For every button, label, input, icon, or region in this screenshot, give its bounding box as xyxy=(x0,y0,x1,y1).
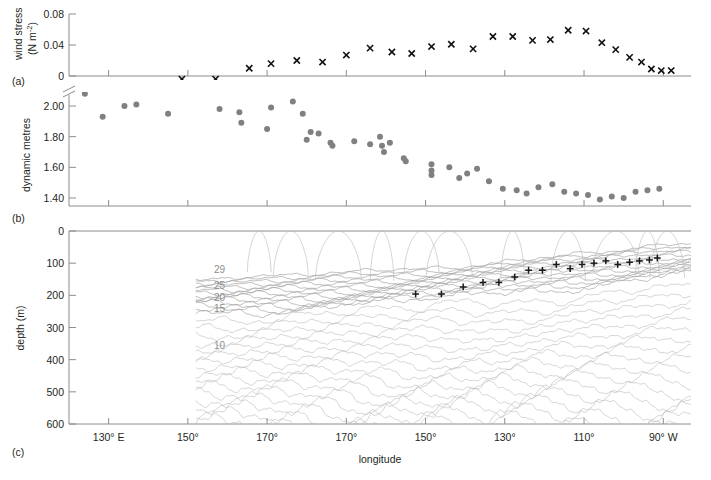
data-point-dot-4 xyxy=(165,111,171,117)
data-point-dot-29 xyxy=(456,175,462,181)
panel-a-ylabel-line2: (N m-2) xyxy=(25,22,38,55)
data-point-dot-3 xyxy=(133,101,139,107)
xtick-label-6: 110° xyxy=(574,431,595,443)
panel-b-data-points xyxy=(82,91,662,203)
data-point-cross-23 xyxy=(648,66,654,72)
data-point-dot-1 xyxy=(100,114,106,120)
xtick-label-3: 170° xyxy=(335,431,357,443)
data-point-cross-12 xyxy=(470,46,476,52)
panel-c-ytick-2: 200 xyxy=(46,289,64,301)
data-point-dot-20 xyxy=(379,143,385,149)
data-point-cross-11 xyxy=(448,41,454,47)
panel-letter-b: (b) xyxy=(12,212,25,224)
data-point-cross-16 xyxy=(547,36,553,42)
isotherm-0 xyxy=(196,244,691,281)
xtick-label-5: 130° xyxy=(494,431,516,443)
data-point-dot-35 xyxy=(524,190,530,196)
panel-a-wind-stress: wind stress (N m-2) (a) 0.08 0.04 0 xyxy=(12,7,691,87)
panel-c-xtick-labels: 130° E150°170°170°150°130°110°90° W xyxy=(93,431,678,443)
data-point-dot-33 xyxy=(500,186,506,192)
data-point-dot-6 xyxy=(236,109,242,115)
data-point-cross-8 xyxy=(389,49,395,55)
panel-b-ytick-0: 2.00 xyxy=(44,100,65,112)
data-point-dot-28 xyxy=(446,164,452,170)
panel-b-yticks: 2.001.801.601.40 xyxy=(44,100,76,204)
data-point-dot-43 xyxy=(621,195,627,201)
data-point-cross-21 xyxy=(626,54,632,60)
xtick-label-1: 150° xyxy=(177,431,199,443)
data-point-cross-7 xyxy=(367,45,373,51)
isotherm-21 xyxy=(196,344,691,372)
data-point-dot-40 xyxy=(585,192,591,198)
contour-label-15: 15 xyxy=(214,303,226,314)
panel-c-yticks: 0100200300400500600 xyxy=(46,225,76,430)
xtick-label-4: 150° xyxy=(415,431,437,443)
data-point-dot-25 xyxy=(429,161,435,167)
panel-b-dynamic-metres: dynamic metres (b) 2.001.801.601.40 xyxy=(12,86,691,224)
data-point-dot-19 xyxy=(377,134,383,140)
data-point-dot-7 xyxy=(238,120,244,126)
data-point-cross-20 xyxy=(613,47,619,53)
data-point-cross-19 xyxy=(599,40,605,46)
x-axis-label: longitude xyxy=(359,453,402,465)
isotherm-17 xyxy=(196,307,691,348)
data-point-dot-42 xyxy=(609,193,615,199)
data-point-dot-41 xyxy=(597,197,603,203)
data-point-cross-2 xyxy=(246,65,252,71)
data-point-dot-10 xyxy=(290,98,296,104)
panel-a-ytick-2: 0 xyxy=(58,70,64,82)
data-point-dot-11 xyxy=(300,111,306,117)
data-point-cross-5 xyxy=(319,59,325,65)
panel-b-ytick-2: 1.60 xyxy=(44,161,65,173)
data-point-cross-0 xyxy=(179,76,185,82)
panel-c-depth-section: depth (m) (c) 0100200300400500600 292520… xyxy=(12,225,691,465)
contour-label-29: 29 xyxy=(214,264,226,275)
data-point-dot-24 xyxy=(403,158,409,164)
panel-b-ylabel: dynamic metres xyxy=(20,118,32,192)
data-point-dot-34 xyxy=(514,187,520,193)
data-point-dot-8 xyxy=(264,126,270,132)
panel-c-ytick-1: 100 xyxy=(46,257,64,269)
data-point-dot-12 xyxy=(304,137,310,143)
panel-a-ytick-0: 0.08 xyxy=(44,8,65,20)
panel-c-ytick-3: 300 xyxy=(46,322,64,334)
panel-c-ytick-4: 400 xyxy=(46,354,64,366)
data-point-dot-2 xyxy=(121,103,127,109)
figure-svg: wind stress (N m-2) (a) 0.08 0.04 0 dyna… xyxy=(0,0,711,480)
panel-c-ytick-0: 0 xyxy=(58,225,64,237)
panel-letter-a: (a) xyxy=(12,75,25,87)
isotherm-18 xyxy=(196,317,691,353)
data-point-dot-22 xyxy=(387,140,393,146)
isotherm-16 xyxy=(196,300,691,340)
contour-label-10: 10 xyxy=(214,340,226,351)
isotherm-3 xyxy=(196,250,691,288)
data-point-cross-4 xyxy=(294,57,300,63)
data-point-dot-30 xyxy=(464,170,470,176)
data-point-cross-25 xyxy=(668,67,674,73)
data-point-dot-9 xyxy=(268,105,274,111)
panel-a-ytick-1: 0.04 xyxy=(44,39,65,51)
panel-b-ytick-3: 1.40 xyxy=(44,192,65,204)
outcrop-contour-3 xyxy=(370,231,394,281)
data-point-dot-32 xyxy=(486,178,492,184)
oceanographic-figure: wind stress (N m-2) (a) 0.08 0.04 0 dyna… xyxy=(0,0,711,480)
data-point-dot-46 xyxy=(656,186,662,192)
panel-b-xticks xyxy=(109,200,664,206)
data-point-cross-17 xyxy=(565,27,571,33)
data-point-dot-0 xyxy=(82,91,88,97)
data-point-dot-18 xyxy=(367,141,373,147)
data-point-dot-38 xyxy=(561,189,567,195)
isotherm-9 xyxy=(196,264,691,303)
panel-a-yticks: 0.08 0.04 0 xyxy=(44,8,76,82)
panel-c-ytick-6: 600 xyxy=(46,418,64,430)
data-point-cross-3 xyxy=(268,61,274,67)
outcrop-contour-6 xyxy=(501,231,525,278)
xtick-label-2: 170° xyxy=(256,431,278,443)
panel-letter-c: (c) xyxy=(12,446,24,458)
data-point-dot-17 xyxy=(351,138,357,144)
data-point-dot-37 xyxy=(549,181,555,187)
thermocline-plus-14 xyxy=(626,259,633,266)
isotherm-5 xyxy=(196,258,691,293)
data-point-cross-10 xyxy=(428,43,434,49)
panel-a-xticks xyxy=(109,70,664,76)
